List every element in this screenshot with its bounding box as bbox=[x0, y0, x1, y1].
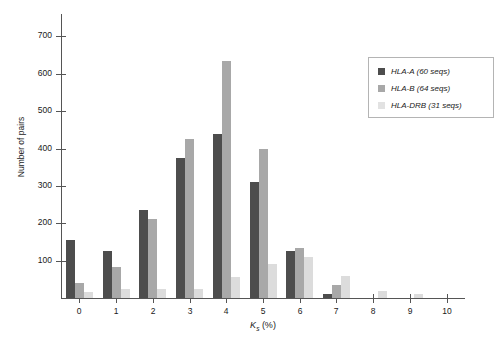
bar-group bbox=[250, 14, 277, 298]
bar bbox=[157, 289, 166, 298]
legend-label: HLA-A (60 seqs) bbox=[391, 67, 450, 76]
y-axis-tick-label: 400 bbox=[28, 143, 52, 153]
bar bbox=[341, 276, 350, 298]
bar-chart: Number of pairs 100200300400500600700 01… bbox=[0, 0, 501, 344]
bar bbox=[259, 149, 268, 298]
bar bbox=[323, 294, 332, 298]
x-axis-tick-label: 8 bbox=[361, 306, 385, 316]
y-axis-title: Number of pairs bbox=[16, 92, 26, 202]
bar bbox=[295, 248, 304, 298]
bar-group bbox=[139, 14, 166, 298]
bar bbox=[286, 251, 295, 298]
bar bbox=[332, 285, 341, 298]
bar bbox=[84, 292, 93, 298]
x-axis-tick-label: 9 bbox=[398, 306, 422, 316]
legend-item-hla-a: HLA-A (60 seqs) bbox=[378, 65, 450, 77]
bar bbox=[112, 267, 121, 298]
legend-swatch-icon bbox=[378, 68, 385, 75]
bar bbox=[268, 264, 277, 298]
bar bbox=[231, 277, 240, 298]
y-axis-tick-label: 200 bbox=[28, 217, 52, 227]
legend-item-hla-drb: HLA-DRB (31 seqs) bbox=[378, 99, 462, 111]
x-axis-tick-label: 1 bbox=[104, 306, 128, 316]
bar bbox=[176, 158, 185, 298]
legend: HLA-A (60 seqs) HLA-B (64 seqs) HLA-DRB … bbox=[368, 57, 494, 118]
x-axis-tick-label: 2 bbox=[141, 306, 165, 316]
legend-label: HLA-B (64 seqs) bbox=[391, 84, 450, 93]
bar bbox=[103, 251, 112, 298]
y-axis-tick-label: 100 bbox=[28, 255, 52, 265]
x-axis-title-unit: (%) bbox=[259, 320, 276, 330]
bar bbox=[139, 210, 148, 298]
bar bbox=[304, 257, 313, 298]
y-axis-tick-label: 700 bbox=[28, 30, 52, 40]
legend-label: HLA-DRB (31 seqs) bbox=[391, 101, 462, 110]
bar-group bbox=[213, 14, 240, 298]
x-axis-tick-label: 7 bbox=[324, 306, 348, 316]
y-axis-tick-label: 500 bbox=[28, 105, 52, 115]
bar-group bbox=[66, 14, 93, 298]
bar bbox=[378, 291, 387, 298]
bar-group bbox=[286, 14, 313, 298]
legend-swatch-icon bbox=[378, 85, 385, 92]
x-axis-tick-label: 5 bbox=[251, 306, 275, 316]
bar bbox=[66, 240, 75, 298]
y-axis-tick-label: 300 bbox=[28, 180, 52, 190]
x-axis-tick-label: 10 bbox=[435, 306, 459, 316]
x-axis-title: Ks (%) bbox=[61, 320, 465, 332]
x-axis-tick-label: 6 bbox=[288, 306, 312, 316]
bar bbox=[414, 294, 423, 298]
bar bbox=[121, 289, 130, 298]
bar bbox=[148, 219, 157, 298]
x-axis-tick-label: 4 bbox=[214, 306, 238, 316]
x-axis-tick-label: 0 bbox=[67, 306, 91, 316]
legend-swatch-icon bbox=[378, 102, 385, 109]
legend-item-hla-b: HLA-B (64 seqs) bbox=[378, 82, 450, 94]
bar-group bbox=[176, 14, 203, 298]
bar bbox=[250, 182, 259, 298]
y-axis-tick-label: 600 bbox=[28, 68, 52, 78]
bar bbox=[185, 139, 194, 298]
bar-group bbox=[323, 14, 350, 298]
bar bbox=[75, 283, 84, 298]
bar bbox=[194, 289, 203, 298]
bar bbox=[213, 134, 222, 298]
x-axis-tick-label: 3 bbox=[178, 306, 202, 316]
bar bbox=[222, 61, 231, 298]
bar-group bbox=[103, 14, 130, 298]
